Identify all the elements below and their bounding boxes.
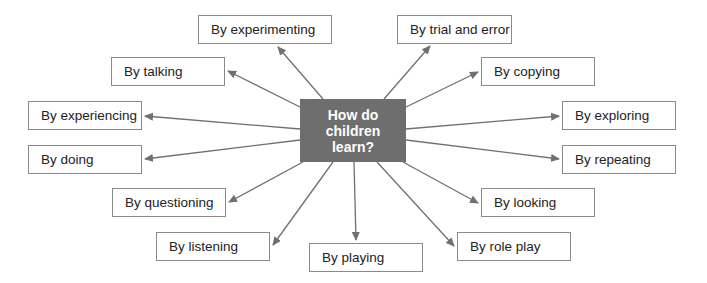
arrow-to-playing — [354, 162, 356, 240]
central-question-box: How do children learn? — [300, 99, 406, 162]
arrow-to-copying — [406, 72, 478, 107]
node-trial-and-error: By trial and error — [397, 15, 512, 44]
node-label: By listening — [169, 239, 238, 254]
node-talking: By talking — [111, 57, 225, 86]
arrow-to-listening — [273, 162, 333, 245]
node-exploring: By exploring — [562, 101, 676, 130]
center-line-2: children — [326, 123, 380, 139]
node-label: By experimenting — [211, 22, 315, 37]
arrow-to-looking — [403, 162, 478, 203]
arrow-to-experimenting — [278, 47, 323, 99]
node-label: By repeating — [575, 152, 651, 167]
node-label: By copying — [494, 64, 560, 79]
node-label: By looking — [494, 195, 556, 210]
arrow-to-trial-and-error — [384, 46, 430, 99]
arrow-to-experiencing — [145, 116, 300, 129]
node-label: By exploring — [575, 108, 649, 123]
node-listening: By listening — [156, 232, 270, 261]
arrow-to-doing — [145, 140, 300, 159]
node-role-play: By role play — [457, 232, 571, 261]
center-line-1: How do — [326, 107, 380, 123]
arrow-to-role-play — [377, 162, 454, 246]
node-doing: By doing — [28, 145, 142, 174]
node-label: By playing — [322, 250, 384, 265]
node-copying: By copying — [481, 57, 595, 86]
node-looking: By looking — [481, 188, 595, 217]
arrow-to-exploring — [406, 116, 559, 129]
center-line-3: learn? — [326, 139, 380, 155]
node-label: By doing — [41, 152, 94, 167]
node-label: By talking — [124, 64, 183, 79]
node-questioning: By questioning — [112, 188, 226, 217]
arrow-to-talking — [228, 71, 300, 107]
node-label: By role play — [470, 239, 541, 254]
node-playing: By playing — [309, 243, 423, 272]
node-label: By questioning — [125, 195, 214, 210]
node-experimenting: By experimenting — [198, 15, 332, 44]
node-repeating: By repeating — [562, 145, 676, 174]
node-label: By experiencing — [41, 108, 137, 123]
node-label: By trial and error — [410, 22, 510, 37]
arrow-to-repeating — [406, 140, 559, 159]
arrow-to-questioning — [229, 162, 303, 202]
node-experiencing: By experiencing — [28, 101, 142, 130]
